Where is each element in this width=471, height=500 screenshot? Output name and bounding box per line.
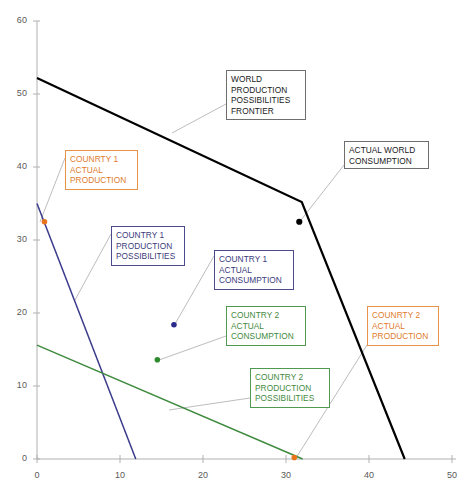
- annotation-world-ppf: WORLD PRODUCTION POSSIBILITIES FRONTIER: [226, 70, 306, 120]
- y-tick-label: 60: [5, 15, 27, 25]
- annotation-country2-actual-production: COUNRTY 2 ACTUAL PRODUCTION: [367, 306, 439, 346]
- annotation-leader-line: [40, 158, 65, 222]
- x-tick-label: 50: [439, 470, 465, 480]
- y-tick-label: 50: [5, 88, 27, 98]
- chart-container: 0102030405060 01020304050 WORLD PRODUCTI…: [0, 0, 471, 500]
- annotation-leader-line: [172, 104, 226, 133]
- annotation-leader-line: [159, 336, 226, 360]
- data-point-marker: [155, 357, 161, 363]
- x-tick-label: 10: [107, 470, 133, 480]
- annotation-leader-line: [175, 256, 214, 324]
- x-tick-label: 30: [273, 470, 299, 480]
- data-point-marker: [42, 219, 48, 225]
- annotation-country1-actual-production: COUNRTY 1 ACTUAL PRODUCTION: [65, 150, 138, 190]
- annotation-leader-line: [169, 398, 250, 410]
- annotation-country2-production-possibilities: COUNTRY 2 PRODUCTION POSSIBILITIES: [250, 368, 330, 408]
- x-tick-label: 0: [24, 470, 50, 480]
- annotation-actual-world-consumption: ACTUAL WORLD CONSUMPTION: [344, 141, 429, 169]
- y-tick-label: 40: [5, 161, 27, 171]
- x-tick-label: 40: [356, 470, 382, 480]
- x-tick-label: 20: [190, 470, 216, 480]
- data-point-marker: [296, 219, 302, 225]
- annotation-leader-line: [301, 165, 344, 220]
- y-tick-label: 10: [5, 380, 27, 390]
- annotation-country2-actual-consumption: COUNTRY 2 ACTUAL CONSUMPTION: [226, 306, 306, 346]
- annotation-country1-production-possibilities: COUNTRY 1 PRODUCTION POSSIBILITIES: [111, 226, 185, 266]
- annotation-country1-actual-consumption: COUNTRY 1 ACTUAL CONSUMPTION: [214, 250, 294, 290]
- y-tick-label: 0: [5, 453, 27, 463]
- y-tick-label: 20: [5, 307, 27, 317]
- data-point-marker: [292, 455, 298, 461]
- annotation-leader-line: [75, 234, 111, 300]
- y-tick-label: 30: [5, 234, 27, 244]
- data-point-marker: [171, 322, 177, 328]
